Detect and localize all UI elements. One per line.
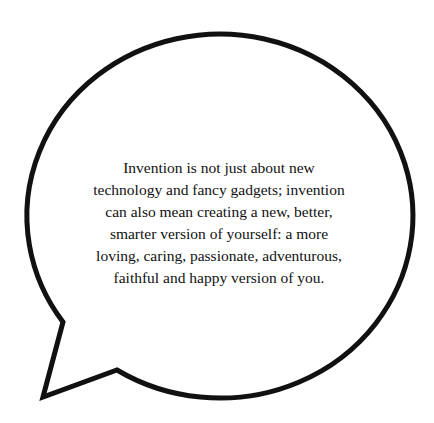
quote-line: Invention is not just about new — [87, 157, 351, 179]
quote-line: loving, caring, passionate, adventurous, — [87, 245, 351, 267]
quote-line: smarter version of yourself: a more — [87, 223, 351, 245]
quote-line: technology and fancy gadgets; invention — [87, 179, 351, 201]
quote-text: Invention is not just about new technolo… — [87, 157, 351, 289]
quote-line: can also mean creating a new, better, — [87, 201, 351, 223]
quote-line: faithful and happy version of you. — [87, 267, 351, 289]
